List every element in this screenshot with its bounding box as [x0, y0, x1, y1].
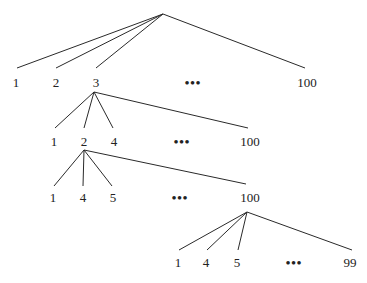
tree-node-label: 100 [297, 76, 317, 89]
tree-node-label: 4 [111, 135, 118, 148]
tree-node-label: 2 [81, 135, 88, 148]
tree-node-label: 1 [175, 256, 182, 269]
tree-node-label: 5 [110, 191, 117, 204]
tree-edge [17, 14, 163, 68]
tree-node-label: 4 [203, 256, 210, 269]
tree-node-label: 1 [50, 191, 57, 204]
tree-edge [83, 150, 84, 186]
tree-edge [84, 150, 246, 184]
ellipsis-node: ••• [174, 135, 191, 148]
tree-node-label: 5 [234, 256, 241, 269]
tree-edge [96, 14, 163, 68]
tree-edge [54, 150, 84, 186]
tree-node-label: 1 [51, 135, 58, 148]
ellipsis-node: ••• [286, 256, 303, 269]
tree-node-label: 3 [93, 76, 100, 89]
tree-node-label: 1 [13, 76, 20, 89]
tree-edge [84, 92, 94, 128]
tree-node-label: 2 [53, 76, 60, 89]
tree-node-label: 99 [344, 256, 357, 269]
tree-edge [247, 212, 352, 250]
ellipsis-node: ••• [185, 76, 202, 89]
tree-edge [55, 92, 94, 128]
tree-node-label: 100 [240, 191, 260, 204]
ellipsis-node: ••• [172, 191, 189, 204]
tree-diagram: 123•••100124•••100145•••100145•••99 [0, 0, 367, 283]
tree-edge [163, 14, 305, 68]
tree-node-label: 4 [80, 191, 87, 204]
tree-edge [238, 212, 247, 250]
tree-edge [56, 14, 163, 68]
tree-edge [94, 92, 113, 128]
tree-node-label: 100 [240, 135, 260, 148]
tree-edge [94, 92, 248, 128]
